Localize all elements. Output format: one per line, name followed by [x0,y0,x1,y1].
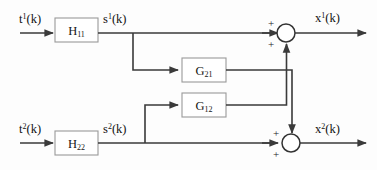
wire-s1-branch-to-g21 [133,33,178,70]
label-x2-arg: (k) [325,122,340,136]
block-g21-subscript: 21 [205,69,213,78]
label-s2: s2(k) [103,122,126,136]
block-g21-base: G [195,64,204,78]
label-x1: x1(k) [315,11,340,25]
summer-bottom-plus-lower: + [273,148,279,160]
label-s1-arg: (k) [112,12,127,26]
label-x1-arg: (k) [325,11,340,25]
wire-g12-to-summer-top [226,44,287,105]
summer-bottom [282,134,300,152]
block-diagram-figure: H11 G21 + + H22 [0,0,377,170]
summer-bottom-plus-upper: + [273,127,279,139]
label-s2-arg: (k) [112,122,127,136]
label-t2-arg: (k) [26,122,41,136]
block-g12-subscript: 12 [205,104,213,113]
block-h11-base: H [68,24,77,38]
block-h22-subscript: 22 [77,142,85,151]
block-h22-base: H [68,137,77,151]
wire-s2-branch-to-g12 [145,105,178,143]
wire-g21-to-summer-bottom [226,70,292,133]
label-s1: s1(k) [103,12,126,26]
label-t1: t1(k) [19,12,41,26]
summer-top [277,24,295,42]
diagram-canvas: H11 G21 + + H22 [0,0,377,170]
block-h11-subscript: 11 [77,29,85,38]
label-t2: t2(k) [19,122,41,136]
block-g12-base: G [195,99,204,113]
label-x2: x2(k) [315,122,340,136]
summer-top-plus-upper: + [268,17,274,29]
label-t1-arg: (k) [26,12,41,26]
summer-top-plus-lower: + [268,38,274,50]
